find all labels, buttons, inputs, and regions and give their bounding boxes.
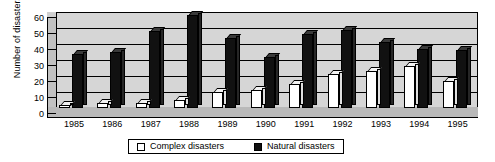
bar-group — [174, 12, 212, 108]
bar-front-face — [443, 81, 454, 108]
bar-front-face — [366, 71, 377, 108]
x-axis-tick-label: 1985 — [57, 120, 91, 129]
bar-side-face — [198, 13, 202, 105]
bar-side-face — [160, 29, 164, 105]
bar-complex-1991 — [289, 80, 300, 108]
y-axis-tick: 30 — [47, 65, 56, 66]
bar-front-face — [404, 66, 415, 108]
x-axis-tick-labels: 1985198619871988198919901991199219931994… — [56, 120, 480, 134]
bar-front-face — [72, 54, 83, 108]
y-axis-tick-label: 50 — [34, 30, 44, 39]
x-axis-tick-label: 1988 — [172, 120, 206, 129]
bar-side-face — [377, 69, 381, 105]
bar-natural-1985 — [72, 50, 83, 108]
bar-group — [212, 12, 250, 108]
x-axis-tick-label: 1992 — [326, 120, 360, 129]
bar-complex-1995 — [443, 77, 454, 108]
disasters-bar-chart: Number of disasters 0102030405060 198519… — [0, 0, 495, 162]
bar-complex-1985 — [59, 101, 70, 108]
bars-container — [56, 12, 478, 108]
legend-label-natural: Natural disasters — [267, 142, 335, 151]
bar-side-face — [339, 72, 343, 105]
y-axis-tick: 50 — [47, 33, 56, 34]
plot-area: 0102030405060 — [47, 12, 478, 118]
bar-complex-1992 — [328, 70, 339, 108]
bar-side-face — [223, 90, 227, 105]
y-axis-tick-label: 40 — [34, 46, 44, 55]
bar-side-face — [83, 52, 87, 105]
y-axis-tick-label: 60 — [34, 14, 44, 23]
bar-group — [59, 12, 97, 108]
bar-group — [404, 12, 442, 108]
x-axis-tick-label: 1993 — [364, 120, 398, 129]
bar-complex-1990 — [251, 86, 262, 108]
bar-front-face — [289, 84, 300, 108]
x-axis-tick-label: 1986 — [95, 120, 129, 129]
y-axis-tick: 0 — [47, 113, 56, 114]
bar-front-face — [212, 92, 223, 108]
chart-legend: Complex disasters Natural disasters — [128, 139, 344, 154]
bar-side-face — [428, 47, 432, 105]
bar-side-face — [390, 40, 394, 105]
x-axis-tick-label: 1995 — [441, 120, 475, 129]
white-square-icon — [137, 143, 145, 151]
bar-side-face — [467, 48, 471, 105]
bar-side-face — [352, 28, 356, 105]
bar-side-face — [275, 55, 279, 105]
bar-front-face — [174, 100, 185, 108]
y-axis-tick-label: 30 — [34, 62, 44, 71]
bar-group — [289, 12, 327, 108]
y-axis-tick-label: 0 — [39, 110, 44, 119]
y-axis-title: Number of disasters — [12, 0, 22, 92]
bar-front-face — [97, 103, 108, 108]
legend-label-complex: Complex disasters — [150, 142, 224, 151]
bar-side-face — [147, 101, 151, 105]
bar-group — [366, 12, 404, 108]
bar-natural-1988 — [187, 11, 198, 108]
bar-side-face — [300, 82, 304, 105]
x-axis-tick-label: 1987 — [134, 120, 168, 129]
y-axis-tick-label: 10 — [34, 94, 44, 103]
bar-group — [97, 12, 135, 108]
bar-complex-1986 — [97, 99, 108, 108]
bar-side-face — [70, 103, 74, 105]
bar-group — [251, 12, 289, 108]
x-axis-tick-label: 1989 — [210, 120, 244, 129]
bar-side-face — [108, 101, 112, 105]
bar-group — [136, 12, 174, 108]
bar-front-face — [251, 90, 262, 108]
y-axis-tick: 40 — [47, 49, 56, 50]
bar-complex-1989 — [212, 88, 223, 108]
legend-item-natural: Natural disasters — [254, 142, 335, 151]
legend-item-complex: Complex disasters — [137, 142, 224, 151]
bar-complex-1994 — [404, 62, 415, 108]
bar-front-face — [187, 15, 198, 108]
x-axis-tick-label: 1991 — [287, 120, 321, 129]
bar-complex-1987 — [136, 99, 147, 108]
y-axis-tick-label: 20 — [34, 78, 44, 87]
bar-natural-1987 — [149, 27, 160, 108]
y-axis-tick: 20 — [47, 81, 56, 82]
bar-front-face — [328, 74, 339, 108]
bar-side-face — [262, 88, 266, 105]
bar-side-face — [415, 64, 419, 105]
bar-front-face — [136, 103, 147, 108]
x-axis-tick-label: 1994 — [402, 120, 436, 129]
bar-side-face — [313, 32, 317, 105]
bar-complex-1988 — [174, 96, 185, 108]
bar-group — [443, 12, 481, 108]
y-axis-tick: 10 — [47, 97, 56, 98]
chart-floor — [47, 107, 478, 118]
bar-complex-1993 — [366, 67, 377, 108]
bar-side-face — [236, 36, 240, 105]
y-axis-tick: 60 — [47, 17, 56, 18]
bar-front-face — [149, 31, 160, 108]
bar-group — [328, 12, 366, 108]
bar-side-face — [121, 50, 125, 105]
x-axis-tick-label: 1990 — [249, 120, 283, 129]
black-square-icon — [254, 143, 262, 151]
bar-side-face — [454, 79, 458, 105]
bar-front-face — [59, 105, 70, 108]
bar-side-face — [185, 98, 189, 105]
